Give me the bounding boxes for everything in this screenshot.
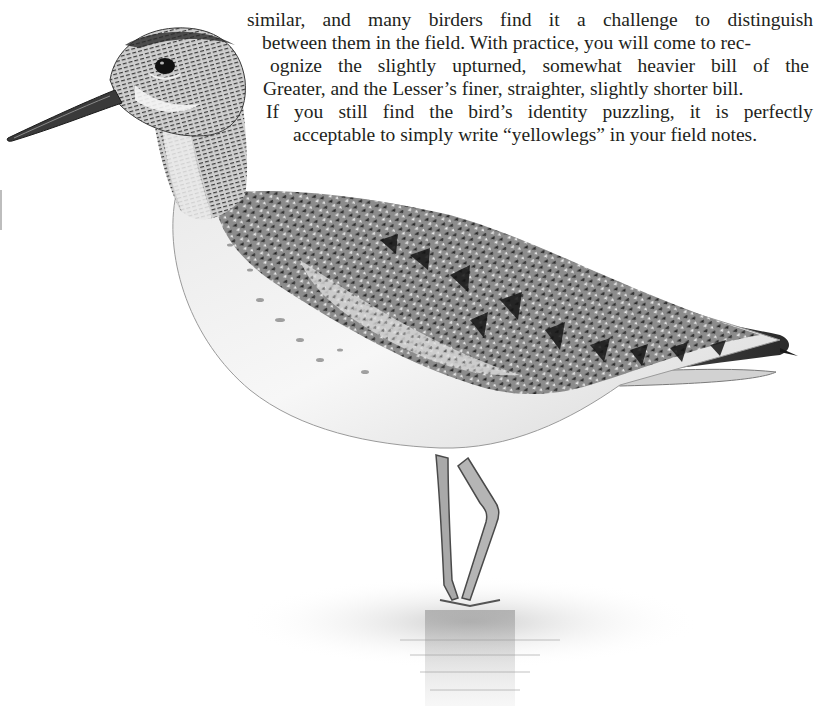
paragraph-line-1: similar, and many birders find it a chal…: [247, 8, 813, 31]
paragraph-line-6: acceptable to simply write “yellowlegs” …: [293, 123, 795, 146]
reflection: [425, 610, 515, 706]
paragraph-line-3: ognize the slightly upturned, somewhat h…: [270, 54, 809, 77]
eye: [155, 58, 175, 74]
paragraph-line-2: between them in the field. With practice…: [262, 31, 796, 54]
paragraph-line-5: If you still find the bird’s identity pu…: [266, 100, 813, 123]
field-guide-page: similar, and many birders find it a chal…: [0, 0, 828, 706]
paragraph-line-4: Greater, and the Lesser’s finer, straigh…: [263, 77, 805, 100]
